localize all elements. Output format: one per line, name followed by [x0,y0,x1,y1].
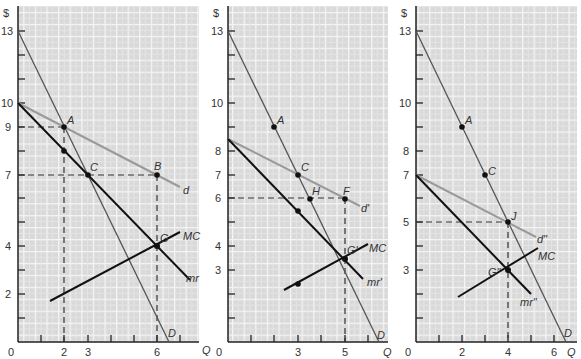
plot-area [228,6,388,342]
y-tick-10: 10 [1,97,13,109]
label-MC: MC [369,242,386,254]
y-tick-3: 3 [403,264,409,276]
x-tick-4: 4 [505,346,511,358]
panel-2: $ Q 0 13 10 8 7 6 4 3 3 5 A C H F G' d' … [211,6,392,358]
label-mr-prime: mr' [367,276,383,288]
point-mr-prime-at-3 [295,208,301,214]
x-tick-3: 3 [85,346,91,358]
oligopoly-diagram: $ Q 0 13 10 9 7 4 2 2 3 6 A B C G d MC m… [0,0,581,359]
label-C: C [90,161,98,173]
x-axis-symbol: Q [202,344,211,356]
point-G-prime [342,256,348,262]
y-tick-6: 6 [215,192,221,204]
y-tick-7: 7 [215,169,221,181]
label-A: A [464,114,472,126]
label-d-double-prime: d" [537,233,548,245]
y-tick-13: 13 [399,25,411,37]
x-tick-2: 2 [61,346,67,358]
y-tick-2: 2 [5,288,11,300]
y-tick-7: 7 [5,169,11,181]
label-A: A [66,114,74,126]
point-mr-at-2 [61,148,67,154]
point-C [482,172,488,178]
panel-1: $ Q 0 13 10 9 7 4 2 2 3 6 A B C G d MC m… [1,6,211,358]
point-J [505,219,511,225]
y-tick-13: 13 [1,25,13,37]
label-J: J [510,210,517,222]
point-A [61,124,67,130]
label-mr: mr [186,272,200,284]
y-axis-symbol: $ [213,7,219,19]
x-axis-symbol: Q [383,346,392,358]
y-tick-10: 10 [399,97,411,109]
label-d: d [183,184,190,196]
point-MC-at-3 [295,281,301,287]
point-G-double-prime [505,267,511,273]
label-B: B [154,160,161,172]
label-A: A [276,114,284,126]
label-H: H [312,185,320,197]
plot-area [416,6,577,342]
x-axis-symbol: Q [567,346,576,358]
origin-label: 0 [405,346,411,358]
y-tick-4: 4 [215,240,221,252]
point-C [85,172,91,178]
label-C: C [301,161,309,173]
y-tick-4: 4 [5,240,11,252]
label-G: G [160,232,169,244]
y-tick-5: 5 [403,216,409,228]
label-MC: MC [538,250,555,262]
y-tick-3: 3 [215,264,221,276]
point-A [271,124,277,130]
y-axis-symbol: $ [3,7,9,19]
x-tick-6: 6 [154,346,160,358]
label-d-prime: d' [361,202,370,214]
x-tick-2: 2 [459,346,465,358]
y-tick-9: 9 [5,121,11,133]
origin-label: 0 [216,346,222,358]
y-axis-symbol: $ [401,7,407,19]
point-C [295,172,301,178]
x-tick-3: 3 [295,346,301,358]
label-D: D [168,327,176,339]
label-C: C [488,165,496,177]
point-H [307,196,313,202]
y-tick-7: 7 [403,169,409,181]
plot-area [18,6,199,342]
origin-label: 0 [8,346,14,358]
x-tick-5: 5 [342,346,348,358]
y-tick-10: 10 [211,97,223,109]
label-D: D [564,327,572,339]
label-mr-double-prime: mr" [520,296,538,308]
point-A [459,124,465,130]
label-MC: MC [183,230,200,242]
label-G-prime: G' [347,244,359,256]
panel-3: $ Q 0 13 10 8 7 5 3 2 4 6 A C J G" d" MC… [399,6,577,358]
label-G-double-prime: G" [488,266,502,278]
y-tick-8: 8 [215,145,221,157]
y-tick-13: 13 [211,25,223,37]
label-D: D [377,329,385,341]
x-tick-6: 6 [551,346,557,358]
point-B [154,172,160,178]
point-F [342,196,348,202]
y-tick-8: 8 [403,145,409,157]
